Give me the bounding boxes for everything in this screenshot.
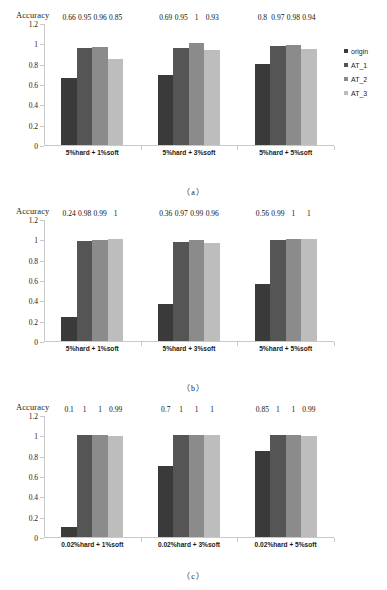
bar-at_1[interactable]: 0.98 xyxy=(77,219,93,341)
bar-at_3[interactable]: 1 xyxy=(204,415,220,537)
bar-rect[interactable] xyxy=(61,78,77,145)
bar-rect[interactable] xyxy=(204,50,220,145)
bar-origin[interactable]: 0.56 xyxy=(255,219,271,341)
bar-group: 0.360.970.990.965%hard + 3%soft xyxy=(141,219,238,341)
x-axis-tick xyxy=(237,146,238,150)
bar-rect[interactable] xyxy=(286,45,302,145)
y-axis-tick-label: 0 xyxy=(34,338,38,347)
bar-at_1[interactable]: 0.97 xyxy=(173,219,189,341)
x-axis-category-label: 5%hard + 5%soft xyxy=(237,345,334,352)
bar-rect[interactable] xyxy=(61,317,77,341)
x-axis-tick xyxy=(141,538,142,542)
bar-at_2[interactable]: 1 xyxy=(189,415,205,537)
bar-origin[interactable]: 0.36 xyxy=(158,219,174,341)
bar-rect[interactable] xyxy=(108,436,124,537)
bar-at_1[interactable]: 0.95 xyxy=(173,23,189,145)
bar-origin[interactable]: 0.66 xyxy=(61,23,77,145)
bar-at_1[interactable]: 1 xyxy=(173,415,189,537)
bar-value-label: 0.99 xyxy=(271,209,284,218)
bar-rect[interactable] xyxy=(301,239,317,341)
bar-rect[interactable] xyxy=(173,48,189,145)
bar-rect[interactable] xyxy=(61,527,77,537)
bar-at_3[interactable]: 0.85 xyxy=(108,23,124,145)
y-axis-tick-label: 0.4 xyxy=(29,297,38,306)
bar-rect[interactable] xyxy=(301,436,317,537)
y-axis-tick-label: 0.2 xyxy=(29,513,38,522)
legend-label: origin xyxy=(351,48,368,55)
bar-rect[interactable] xyxy=(270,435,286,537)
bar-rect[interactable] xyxy=(270,46,286,145)
bar-group: 0.690.9510.935%hard + 3%soft xyxy=(141,23,238,145)
bar-at_2[interactable]: 1 xyxy=(286,219,302,341)
y-axis-tick-label: 0.4 xyxy=(29,101,38,110)
bar-origin[interactable]: 0.85 xyxy=(255,415,271,537)
x-axis-tick xyxy=(334,146,335,150)
bar-group: 0.85110.990.02%hard + 5%soft xyxy=(237,415,334,537)
chart-legend: originAT_1AT_2AT_3 xyxy=(344,44,387,100)
bar-origin[interactable]: 0.69 xyxy=(158,23,174,145)
bar-origin[interactable]: 0.7 xyxy=(158,415,174,537)
x-axis-line xyxy=(44,145,334,146)
bar-rect[interactable] xyxy=(286,435,302,537)
bar-at_2[interactable]: 0.98 xyxy=(286,23,302,145)
bar-group: 0.71110.02%hard + 3%soft xyxy=(141,415,238,537)
bar-rect[interactable] xyxy=(92,435,108,537)
bar-rect[interactable] xyxy=(158,75,174,145)
bar-at_3[interactable]: 1 xyxy=(301,219,317,341)
bar-rect[interactable] xyxy=(270,240,286,341)
bar-at_1[interactable]: 0.97 xyxy=(270,23,286,145)
bar-at_3[interactable]: 0.99 xyxy=(301,415,317,537)
bar-rect[interactable] xyxy=(77,48,93,145)
bar-group-bars: 0.240.980.991 xyxy=(44,219,141,341)
bar-rect[interactable] xyxy=(173,242,189,341)
bar-at_2[interactable]: 0.99 xyxy=(92,219,108,341)
bar-rect[interactable] xyxy=(77,435,93,537)
bar-rect[interactable] xyxy=(189,435,205,537)
bar-at_1[interactable]: 0.95 xyxy=(77,23,93,145)
bar-rect[interactable] xyxy=(92,240,108,341)
bar-rect[interactable] xyxy=(255,284,271,341)
bar-at_2[interactable]: 0.99 xyxy=(189,219,205,341)
legend-item-origin[interactable]: origin xyxy=(344,44,387,58)
y-axis-tick-label: 1.2 xyxy=(29,412,38,421)
bar-rect[interactable] xyxy=(204,243,220,341)
x-axis-tick xyxy=(334,342,335,346)
bar-rect[interactable] xyxy=(189,240,205,341)
legend-item-at_1[interactable]: AT_1 xyxy=(344,58,387,72)
bar-rect[interactable] xyxy=(255,451,271,537)
bar-rect[interactable] xyxy=(77,241,93,341)
bar-group: 0.660.950.960.855%hard + 1%soft xyxy=(44,23,141,145)
bar-value-label: 0.94 xyxy=(302,13,315,22)
bar-rect[interactable] xyxy=(108,239,124,341)
bar-at_2[interactable]: 1 xyxy=(92,415,108,537)
bar-group-bars: 0.660.950.960.85 xyxy=(44,23,141,145)
bar-at_1[interactable]: 1 xyxy=(270,415,286,537)
bar-origin[interactable]: 0.8 xyxy=(255,23,271,145)
bar-rect[interactable] xyxy=(189,43,205,145)
bar-at_3[interactable]: 1 xyxy=(108,219,124,341)
bar-rect[interactable] xyxy=(92,47,108,145)
bar-at_1[interactable]: 0.99 xyxy=(270,219,286,341)
x-axis-tick xyxy=(141,146,142,150)
bar-at_2[interactable]: 1 xyxy=(189,23,205,145)
bar-at_2[interactable]: 1 xyxy=(286,415,302,537)
bar-at_3[interactable]: 0.99 xyxy=(108,415,124,537)
bar-rect[interactable] xyxy=(204,435,220,537)
bar-at_3[interactable]: 0.94 xyxy=(301,23,317,145)
legend-item-at_2[interactable]: AT_2 xyxy=(344,72,387,86)
bar-rect[interactable] xyxy=(255,64,271,145)
bar-rect[interactable] xyxy=(158,304,174,341)
bar-origin[interactable]: 0.24 xyxy=(61,219,77,341)
bar-at_2[interactable]: 0.96 xyxy=(92,23,108,145)
legend-item-at_3[interactable]: AT_3 xyxy=(344,86,387,100)
bar-origin[interactable]: 0.1 xyxy=(61,415,77,537)
bar-at_3[interactable]: 0.93 xyxy=(204,23,220,145)
bar-at_3[interactable]: 0.96 xyxy=(204,219,220,341)
bar-rect[interactable] xyxy=(158,466,174,537)
bar-rect[interactable] xyxy=(286,239,302,341)
x-axis-category-label: 5%hard + 1%soft xyxy=(44,149,141,156)
bar-rect[interactable] xyxy=(301,49,317,145)
bar-rect[interactable] xyxy=(173,435,189,537)
bar-at_1[interactable]: 1 xyxy=(77,415,93,537)
bar-rect[interactable] xyxy=(108,59,124,145)
